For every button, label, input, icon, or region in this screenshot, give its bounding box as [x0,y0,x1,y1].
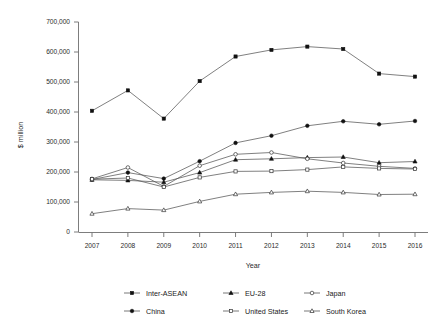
y-tick-label: 0 [66,228,70,235]
data-point-filled-square [162,117,165,120]
data-point-filled-square [198,80,201,83]
data-point-filled-circle [130,309,134,313]
x-axis-title: Year [246,261,261,270]
data-point-open-square [162,185,165,188]
data-point-filled-square [234,55,237,58]
series-united-states [90,165,416,188]
legend-item-label: Inter-ASEAN [146,289,187,298]
data-point-open-square [306,168,309,171]
y-tick-label: 100,000 [46,198,70,205]
legend-item-label: South Korea [326,307,366,316]
series-inter-asean [90,45,416,120]
data-point-filled-square [342,47,345,50]
data-point-filled-circle [162,177,166,181]
data-point-filled-square [413,75,416,78]
series-japan [90,151,417,189]
data-point-filled-square [270,48,273,51]
legend-item-south-korea[interactable]: South Korea [304,307,366,316]
data-point-open-circle [234,153,238,157]
legend-item-label: China [146,307,165,316]
data-point-open-circle [126,166,130,170]
data-point-open-square [90,178,93,181]
data-point-open-square [126,176,129,179]
data-point-open-circle [270,151,274,155]
data-point-filled-circle [341,120,345,124]
series-eu-28 [90,155,417,184]
y-tick-label: 400,000 [46,108,70,115]
series-line [92,47,415,119]
x-tick-label: 2012 [264,242,279,249]
data-point-open-square [270,170,273,173]
data-point-open-square [378,167,381,170]
legend-item-eu-28[interactable]: EU-28 [223,289,265,298]
x-axis-ticks: 2007200820092010201120122013201420152016 [85,233,423,250]
x-tick-label: 2015 [372,242,387,249]
y-tick-label: 500,000 [46,78,70,85]
legend-item-label: United States [245,307,289,316]
series-south-korea [90,189,417,215]
data-point-open-triangle [126,206,130,210]
data-point-filled-circle [126,171,130,175]
data-point-filled-square [126,89,129,92]
legend-item-label: EU-28 [245,289,265,298]
x-tick-label: 2016 [408,242,423,249]
legend-item-japan[interactable]: Japan [304,289,346,298]
data-point-open-square [234,170,237,173]
data-point-filled-circle [377,123,381,127]
data-point-filled-square [90,109,93,112]
y-axis-title: $ million [16,122,25,148]
y-tick-label: 200,000 [46,168,70,175]
y-axis-ticks: 0100,000200,000300,000400,000500,000600,… [46,18,78,235]
data-point-filled-square [306,45,309,48]
line-chart-figure: $ million Year 0100,000200,000300,000400… [0,0,435,326]
data-point-open-square [413,167,416,170]
data-point-open-circle [341,161,345,165]
data-point-filled-triangle [341,155,345,159]
data-point-filled-circle [270,134,274,138]
chart-canvas: $ million Year 0100,000200,000300,000400… [0,0,435,326]
data-point-open-triangle [305,189,309,193]
data-point-open-circle [306,157,310,161]
data-point-open-square [198,176,201,179]
series-line [92,191,415,214]
data-point-open-square [229,309,232,312]
x-tick-label: 2009 [156,242,171,249]
series-line [92,167,415,187]
data-point-filled-triangle [413,159,417,163]
legend-item-label: Japan [326,289,346,298]
legend-item-united-states[interactable]: United States [223,307,289,316]
series-line [92,157,415,182]
x-tick-label: 2007 [85,242,100,249]
data-point-open-square [342,165,345,168]
x-tick-label: 2014 [336,242,351,249]
data-point-filled-circle [306,124,310,128]
y-tick-label: 700,000 [46,18,70,25]
data-point-filled-circle [198,159,202,163]
data-point-open-circle [198,164,202,168]
data-point-filled-circle [234,141,238,145]
y-tick-label: 300,000 [46,138,70,145]
chart-legend: Inter-ASEANEU-28JapanChinaUnited StatesS… [124,289,366,316]
data-point-filled-circle [413,119,417,123]
data-point-open-circle [310,291,314,295]
x-tick-label: 2010 [192,242,207,249]
x-tick-label: 2013 [300,242,315,249]
legend-item-inter-asean[interactable]: Inter-ASEAN [124,289,187,298]
x-tick-label: 2011 [228,242,243,249]
series-line [92,121,415,180]
series-china [90,119,417,181]
legend-item-china[interactable]: China [124,307,165,316]
data-point-filled-square [130,291,133,294]
y-tick-label: 600,000 [46,48,70,55]
series-layer [90,45,417,215]
data-point-filled-square [378,72,381,75]
x-tick-label: 2008 [121,242,136,249]
